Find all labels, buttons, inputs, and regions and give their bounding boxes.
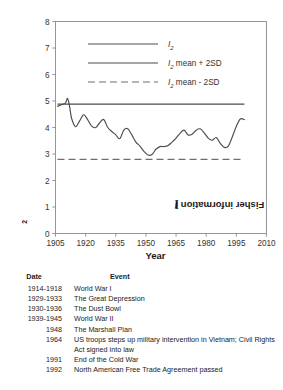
cell-date: 1948 bbox=[0, 325, 68, 335]
x-axis-ticks: 19051920193519501965198019952010 bbox=[46, 234, 276, 249]
legend-label: I2 mean + 2SD bbox=[168, 59, 222, 70]
cell-event: The Marshall Plan bbox=[68, 325, 283, 335]
reference-lines bbox=[58, 104, 245, 159]
table-row: 1914-1918World War I bbox=[0, 284, 283, 294]
y-axis-ticks: 012345678 bbox=[45, 18, 56, 239]
x-tick-label: 2010 bbox=[257, 239, 276, 248]
column-header-date: Date bbox=[0, 272, 68, 284]
events-table-body: 1914-1918World War I1929-1933The Great D… bbox=[0, 284, 283, 376]
y-axis-title-subscript: 2 bbox=[21, 220, 28, 224]
cell-date: 1914-1918 bbox=[0, 284, 68, 294]
table-row: 1930-1936The Dust Bowl bbox=[0, 304, 283, 314]
x-tick-label: 1965 bbox=[167, 239, 186, 248]
table-row: 1964US troops steps up military interven… bbox=[0, 335, 283, 355]
table-row: 1992North American Free Trade Agreement … bbox=[0, 365, 283, 375]
cell-event: World War II bbox=[68, 314, 283, 324]
column-header-event: Event bbox=[68, 272, 283, 284]
cell-date: 1964 bbox=[0, 335, 68, 355]
chart-legend: I2I2 mean + 2SDI2 mean - 2SD bbox=[88, 40, 222, 89]
x-axis-title: Year bbox=[0, 250, 283, 261]
fisher-information-line-chart: 012345678 190519201935195019651980199520… bbox=[0, 0, 283, 268]
x-axis-title-text: Year bbox=[145, 250, 165, 261]
y-axis-title: Fisher information (I2) bbox=[2, 60, 18, 220]
cell-event: US troops steps up military intervention… bbox=[68, 335, 283, 355]
cell-date: 1939-1945 bbox=[0, 314, 68, 324]
cell-date: 1930-1936 bbox=[0, 304, 68, 314]
y-axis-title-text: Fisher information ( bbox=[175, 200, 264, 211]
historical-events-table: Date Event 1914-1918World War I1929-1933… bbox=[0, 272, 283, 376]
cell-event: End of the Cold War bbox=[68, 355, 283, 365]
legend-label: I2 mean - 2SD bbox=[168, 78, 220, 89]
cell-event: The Dust Bowl bbox=[68, 304, 283, 314]
x-tick-label: 1920 bbox=[77, 239, 96, 248]
cell-event: The Great Depression bbox=[68, 294, 283, 304]
events-table-head: Date Event bbox=[0, 272, 283, 284]
x-tick-label: 1905 bbox=[46, 239, 65, 248]
x-tick-label: 1935 bbox=[107, 239, 126, 248]
legend-label: I2 bbox=[168, 40, 174, 51]
y-tick-label: 3 bbox=[45, 150, 50, 159]
table-row: 1948The Marshall Plan bbox=[0, 325, 283, 335]
cell-date: 1929-1933 bbox=[0, 294, 68, 304]
table-row: 1991End of the Cold War bbox=[0, 355, 283, 365]
y-tick-label: 4 bbox=[45, 124, 50, 133]
x-tick-label: 1980 bbox=[197, 239, 216, 248]
x-tick-label: 1950 bbox=[137, 239, 156, 248]
cell-event: North American Free Trade Agreement pass… bbox=[68, 365, 283, 375]
y-tick-label: 2 bbox=[45, 177, 50, 186]
table-header-row: Date Event bbox=[0, 272, 283, 284]
y-tick-label: 5 bbox=[45, 97, 50, 106]
y-tick-label: 1 bbox=[45, 203, 50, 212]
figure-chart-panel: 012345678 190519201935195019651980199520… bbox=[0, 0, 283, 268]
y-tick-label: 7 bbox=[45, 44, 50, 53]
events-table: Date Event 1914-1918World War I1929-1933… bbox=[0, 272, 283, 376]
data-series-i2 bbox=[58, 98, 245, 155]
cell-event: World War I bbox=[68, 284, 283, 294]
y-tick-label: 0 bbox=[45, 230, 50, 239]
table-row: 1929-1933The Great Depression bbox=[0, 294, 283, 304]
x-tick-label: 1995 bbox=[227, 239, 246, 248]
i2-curve bbox=[58, 98, 245, 155]
cell-date: 1991 bbox=[0, 355, 68, 365]
cell-date: 1992 bbox=[0, 365, 68, 375]
y-tick-label: 8 bbox=[45, 18, 50, 27]
y-tick-label: 6 bbox=[45, 71, 50, 80]
y-axis-title-close: ) bbox=[175, 200, 178, 211]
table-row: 1939-1945World War II bbox=[0, 314, 283, 324]
